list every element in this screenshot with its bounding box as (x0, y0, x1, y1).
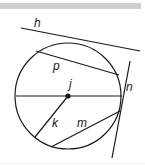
center-label: j (67, 77, 72, 91)
geometry-diagram: j hpnkm (0, 0, 145, 166)
label-h: h (34, 16, 41, 30)
line-p (36, 51, 119, 75)
line-h (21, 28, 140, 51)
label-k: k (52, 116, 59, 130)
line-n (112, 61, 130, 158)
label-n: n (126, 80, 133, 94)
center-point (65, 93, 70, 98)
label-p: p (52, 59, 60, 73)
label-m: m (77, 116, 87, 130)
